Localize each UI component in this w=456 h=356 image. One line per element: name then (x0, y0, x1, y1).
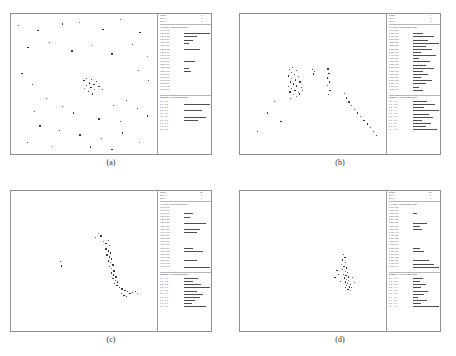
scatter-point (34, 111, 35, 112)
bin-bar (413, 303, 422, 304)
bin-bar (184, 281, 194, 282)
bin-bar (413, 264, 434, 265)
bin-bar (413, 267, 439, 268)
bin-bar-track (413, 265, 441, 268)
scatter-point (299, 93, 300, 94)
scatter-point (344, 257, 346, 259)
scatter-point (139, 32, 140, 33)
scatter-point (62, 23, 64, 25)
scatter-point (346, 279, 347, 280)
scatter-point (92, 45, 93, 46)
scatter-point (291, 78, 292, 79)
figure-sheet: STEP:0DIM-X:0DIM-Y:0X-THETA DISTRIBUTION… (0, 0, 456, 356)
bin-bar (184, 284, 202, 285)
scatter-point (354, 282, 355, 283)
bin-bar (184, 287, 210, 288)
scatter-point (291, 88, 292, 89)
panel-c-sidebar-content: STEP:16DIM-X:1DIM-Y:1X-THETA DISTRIBUTIO… (160, 191, 212, 308)
scatter-point (115, 276, 117, 278)
scatter-point (111, 149, 112, 150)
bin-bar (184, 229, 200, 230)
scatter-point (293, 94, 294, 95)
bin-bar (413, 213, 418, 214)
scatter-point (122, 132, 123, 133)
bin-bar (184, 297, 200, 298)
scatter-point (344, 93, 345, 94)
scatter-point (296, 85, 297, 86)
bin-bar (184, 232, 197, 233)
scatter-point (46, 98, 47, 99)
bin-bar (413, 107, 424, 108)
scatter-point (345, 281, 346, 282)
scatter-point (90, 87, 92, 89)
bin-bar (413, 248, 420, 249)
scatter-point (113, 105, 114, 106)
scatter-point (137, 293, 138, 294)
scatter-point (373, 131, 374, 132)
scatter-point (103, 241, 104, 242)
bin-bar (184, 248, 194, 249)
scatter-point (328, 94, 329, 95)
scatter-point (121, 288, 123, 290)
bin-range-label: 0.95-1.00 (160, 265, 184, 268)
scatter-point (348, 280, 349, 281)
scatter-point (301, 87, 302, 88)
scatter-point (347, 283, 348, 284)
bin-bar (184, 49, 201, 50)
scatter-point (83, 80, 84, 81)
energy-row: 0.9 - 1.0 (160, 128, 212, 131)
scatter-point (129, 293, 130, 294)
scatter-point (121, 293, 122, 294)
bin-bar (413, 55, 437, 56)
scatter-point (60, 261, 61, 262)
xtheta-row: 0.95-1.00 (160, 265, 212, 268)
scatter-point (91, 79, 92, 80)
scatter-point (88, 91, 89, 92)
scatter-point (328, 73, 330, 75)
scatter-point (147, 115, 148, 116)
scatter-point (351, 287, 352, 288)
scatter-point (347, 289, 348, 290)
bin-bar (413, 65, 426, 66)
scatter-point (27, 47, 28, 48)
scatter-point (86, 78, 87, 79)
scatter-point (73, 112, 74, 113)
scatter-point (329, 90, 331, 92)
bin-bar (184, 303, 192, 304)
bin-bar (413, 74, 428, 75)
scatter-point (108, 250, 110, 252)
scatter-point (294, 90, 295, 91)
scatter-point (360, 116, 361, 117)
bin-bar (184, 104, 210, 105)
scatter-point (93, 84, 94, 85)
scatter-point (71, 50, 73, 52)
scatter-point (340, 281, 341, 282)
scatter-point (111, 272, 112, 273)
scatter-point (290, 81, 291, 82)
scatter-point (92, 93, 93, 94)
scatter-point (348, 276, 349, 277)
scatter-point (18, 25, 19, 26)
bin-bar (184, 223, 207, 224)
bin-bar (184, 43, 190, 44)
scatter-point (127, 291, 128, 292)
scatter-point (98, 233, 99, 234)
scatter-point (108, 240, 109, 241)
bin-bar (413, 104, 435, 105)
scatter-point (37, 30, 39, 32)
panel-caption-d: (d) (239, 335, 441, 344)
scatter-point (312, 69, 314, 71)
bin-bar (184, 260, 197, 261)
bin-bar (413, 117, 433, 118)
panel-caption-b: (b) (239, 158, 441, 167)
scatter-point (357, 112, 358, 113)
bin-bar (413, 300, 427, 301)
scatter-point (267, 112, 269, 114)
header-value: 1 (414, 197, 432, 200)
bin-bar (184, 291, 197, 292)
panel-c-plot-area (10, 190, 157, 332)
block-gap (160, 92, 212, 95)
energy-row: 0.9 - 1.0 (389, 305, 441, 308)
scatter-point (280, 121, 281, 122)
bin-bar (413, 306, 439, 307)
